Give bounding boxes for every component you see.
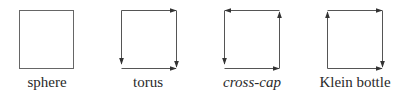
torus-square <box>100 0 200 72</box>
torus-label: torus <box>98 74 198 91</box>
torus-diagram: torus <box>100 0 200 98</box>
klein-bottle-diagram: Klein bottle <box>300 0 400 98</box>
cross-cap-label: cross-cap <box>202 74 302 91</box>
cross-cap-diagram: cross-cap <box>200 0 300 98</box>
cross-cap-square <box>200 0 300 72</box>
klein-bottle-label: Klein bottle <box>305 74 403 91</box>
sphere-square <box>0 0 100 72</box>
klein-bottle-square <box>300 0 400 72</box>
sphere-label: sphere <box>0 74 97 91</box>
sphere-diagram: sphere <box>0 0 100 98</box>
